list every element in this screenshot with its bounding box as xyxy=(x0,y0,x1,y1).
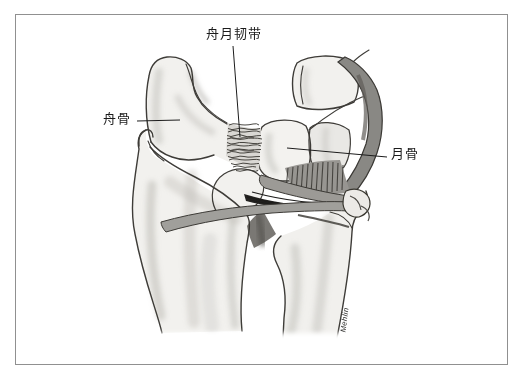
figure-canvas: 舟月韧带 舟骨 月骨 Mehlin xyxy=(0,0,522,380)
interosseous-shadow xyxy=(247,211,276,248)
label-lunate: 月骨 xyxy=(391,147,419,161)
scapholunate-ligament-hatch xyxy=(226,123,262,171)
fade-mask xyxy=(110,333,370,351)
styloid-knob xyxy=(343,189,370,217)
label-scapholunate-ligament: 舟月韧带 xyxy=(206,27,262,41)
wrist-illustration xyxy=(0,0,522,380)
label-scaphoid: 舟骨 xyxy=(103,112,131,126)
